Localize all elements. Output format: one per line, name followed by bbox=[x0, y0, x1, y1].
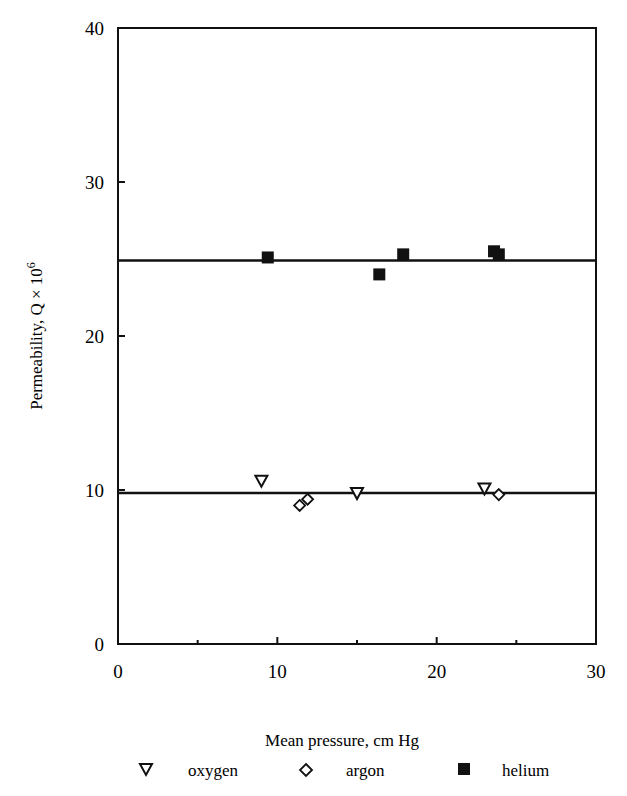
data-points bbox=[255, 245, 504, 511]
argon-point bbox=[493, 489, 504, 500]
legend: oxygen argon helium bbox=[140, 761, 549, 780]
y-tick-label: 40 bbox=[85, 18, 104, 39]
helium-point bbox=[397, 248, 409, 260]
legend-item-argon: argon bbox=[300, 761, 385, 780]
axis-ticks bbox=[118, 28, 596, 644]
legend-item-oxygen: oxygen bbox=[140, 761, 239, 780]
x-tick-label: 10 bbox=[268, 661, 287, 682]
x-tick-label: 0 bbox=[113, 661, 123, 682]
down-triangle-icon bbox=[140, 764, 152, 775]
axis-tick-labels: 0102030400102030 bbox=[85, 18, 606, 682]
y-tick-label: 10 bbox=[85, 480, 104, 501]
legend-label-helium: helium bbox=[502, 761, 549, 780]
y-tick-label: 0 bbox=[95, 634, 105, 655]
helium-point bbox=[262, 251, 274, 263]
reference-lines bbox=[118, 261, 596, 494]
x-tick-label: 20 bbox=[427, 661, 446, 682]
permeability-chart: 0102030400102030 Mean pressure, cm Hg Pe… bbox=[0, 0, 627, 796]
legend-label-argon: argon bbox=[346, 761, 385, 780]
x-tick-label: 30 bbox=[587, 661, 606, 682]
helium-point bbox=[493, 248, 505, 260]
legend-label-oxygen: oxygen bbox=[188, 761, 239, 780]
filled-square-icon bbox=[458, 763, 470, 775]
plot-border bbox=[118, 28, 596, 644]
y-tick-label: 30 bbox=[85, 172, 104, 193]
y-axis-title-main: Permeability, Q × 10 bbox=[27, 268, 46, 410]
x-axis-title: Mean pressure, cm Hg bbox=[265, 731, 419, 750]
legend-item-helium: helium bbox=[458, 761, 549, 780]
y-axis-title-exponent: 6 bbox=[24, 262, 38, 268]
oxygen-point bbox=[255, 476, 267, 487]
diamond-icon bbox=[300, 764, 312, 776]
plot-frame bbox=[118, 28, 596, 644]
helium-point bbox=[373, 268, 385, 280]
y-tick-label: 20 bbox=[85, 326, 104, 347]
y-axis-title: Permeability, Q × 106 bbox=[24, 262, 46, 410]
